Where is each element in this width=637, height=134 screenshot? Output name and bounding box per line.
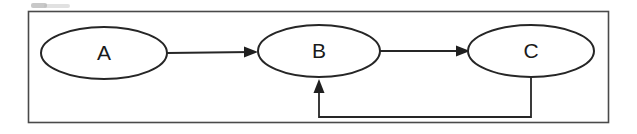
node-a[interactable]: A <box>41 27 167 79</box>
diagram-canvas: A B C <box>0 0 637 134</box>
edge-a-to-b[interactable] <box>167 47 258 58</box>
edge-c-to-b-feedback[interactable] <box>314 77 532 117</box>
node-a-label: A <box>97 41 111 64</box>
node-b[interactable]: B <box>258 25 380 77</box>
scan-artifact-smudge <box>31 3 70 8</box>
edge-c-to-b-feedback-arrowhead <box>314 79 325 93</box>
graph-diagram: A B C <box>0 0 637 134</box>
node-c-label: C <box>523 39 538 62</box>
edge-a-to-b-line <box>167 52 252 53</box>
edge-a-to-b-arrowhead <box>244 47 258 58</box>
edge-b-to-c[interactable] <box>380 46 470 57</box>
edge-c-to-b-feedback-path <box>319 77 531 117</box>
node-c[interactable]: C <box>468 25 594 77</box>
node-b-label: B <box>312 39 326 62</box>
